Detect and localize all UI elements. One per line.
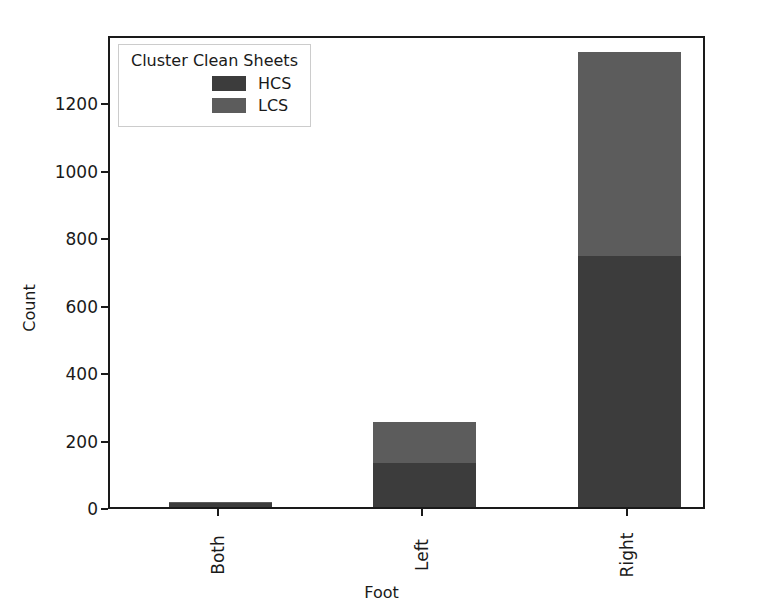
bar-segment-hcs[interactable]	[373, 463, 476, 507]
y-axis-tick-label: 0	[36, 498, 98, 520]
y-axis-tick-mark	[101, 508, 108, 510]
y-axis-tick-mark	[101, 238, 108, 240]
y-axis-tick-mark	[101, 171, 108, 173]
x-axis-tick-label: Right	[605, 523, 650, 565]
x-axis-tick-mark	[217, 509, 219, 516]
x-axis-tick-mark	[626, 509, 628, 516]
x-axis-tick-mark	[421, 509, 423, 516]
x-axis-label: Foot	[0, 583, 763, 602]
legend: Cluster Clean Sheets HCSLCS	[118, 44, 311, 127]
bar-segment-lcs[interactable]	[373, 422, 476, 463]
legend-swatch-icon	[212, 98, 246, 113]
bar-segment-lcs[interactable]	[578, 52, 681, 256]
bar-stack-both[interactable]	[169, 502, 272, 507]
legend-item-label: LCS	[258, 96, 298, 115]
y-axis-tick-label: 1000	[36, 161, 98, 183]
y-axis-tick-mark	[101, 103, 108, 105]
x-axis-tick-label: Both	[198, 523, 238, 565]
legend-item-label: HCS	[258, 74, 298, 93]
y-axis-tick-label: 1200	[36, 93, 98, 115]
chart-title	[0, 0, 763, 1]
y-axis-tick-label: 600	[36, 296, 98, 318]
chart-figure: Count 020040060080010001200 BothLeftRigh…	[0, 0, 763, 615]
legend-item-lcs: LCS	[131, 96, 298, 115]
y-axis-tick-mark	[101, 373, 108, 375]
legend-swatch-icon	[212, 76, 246, 91]
bar-stack-right[interactable]	[578, 52, 681, 507]
legend-title: Cluster Clean Sheets	[131, 51, 298, 70]
x-axis-tick-label: Left	[406, 523, 438, 565]
legend-item-hcs: HCS	[131, 74, 298, 93]
bar-stack-left[interactable]	[373, 422, 476, 507]
y-axis-tick-mark	[101, 306, 108, 308]
bar-segment-hcs[interactable]	[169, 503, 272, 507]
y-axis-tick-label: 200	[36, 431, 98, 453]
legend-entries: HCSLCS	[131, 74, 298, 115]
bar-segment-hcs[interactable]	[578, 256, 681, 507]
y-axis-tick-mark	[101, 441, 108, 443]
y-axis-tick-label: 400	[36, 363, 98, 385]
y-axis-tick-label: 800	[36, 228, 98, 250]
